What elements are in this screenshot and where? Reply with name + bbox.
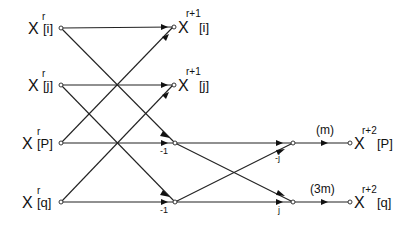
svg-text:r+2: r+2 [362, 184, 377, 195]
svg-text:r+2: r+2 [362, 125, 377, 136]
stage1-output-label-i: X r+1 [i] [178, 8, 209, 36]
input-label-j: X r [j] [28, 68, 53, 94]
svg-text:X: X [354, 194, 365, 211]
input-label-i: X r [i] [28, 11, 53, 37]
stage2-output-label-p: X r+2 [P] (m) [316, 123, 393, 152]
weight-q-stage1: -1 [160, 205, 168, 215]
svg-text:X: X [178, 19, 189, 36]
butterfly-diagram: X r [i] X r [j] X r [P] X r [q] X r+1 [i… [0, 0, 412, 227]
svg-text:X: X [178, 77, 189, 94]
svg-text:[q]: [q] [377, 195, 391, 210]
stage1-edges [61, 27, 175, 202]
svg-text:[i]: [i] [199, 20, 209, 35]
svg-text:X: X [354, 135, 365, 152]
svg-text:[P]: [P] [37, 136, 53, 151]
svg-text:[j]: [j] [199, 78, 209, 93]
svg-text:[j]: [j] [43, 78, 53, 93]
svg-text:r+1: r+1 [186, 8, 201, 19]
stage2-output-label-q: X r+2 [q] (3m) [310, 182, 391, 211]
svg-text:[P]: [P] [377, 136, 393, 151]
weight-q-stage2: j [277, 205, 280, 215]
weight-p-stage1: -1 [160, 146, 168, 156]
branch-weights: -1 -1 -j j [160, 146, 280, 215]
input-label-q: X r [q] [22, 185, 51, 211]
svg-text:X: X [28, 77, 39, 94]
nodes [59, 25, 352, 204]
svg-text:r+1: r+1 [186, 66, 201, 77]
svg-text:X: X [22, 135, 33, 152]
weight-p-stage2-cross: -j [275, 153, 280, 163]
svg-text:[q]: [q] [37, 195, 51, 210]
twiddle-m: (m) [316, 123, 334, 137]
svg-text:X: X [28, 20, 39, 37]
svg-text:X: X [22, 194, 33, 211]
stage1-output-label-j: X r+1 [j] [178, 66, 209, 94]
svg-text:[i]: [i] [43, 21, 53, 36]
input-label-p: X r [P] [22, 126, 53, 152]
twiddle-3m: (3m) [310, 182, 335, 196]
